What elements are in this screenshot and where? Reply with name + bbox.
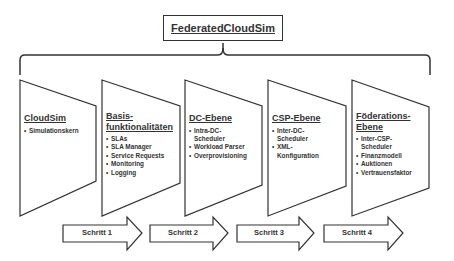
- title-box: FederatedCloudSim: [163, 15, 283, 41]
- list-item: XML-Konfiguration: [272, 143, 346, 160]
- list-item: Service Requests: [106, 152, 180, 160]
- list-item: SLA Manager: [106, 143, 180, 151]
- panel-heading: Föderations- Ebene: [356, 111, 430, 132]
- panel-cloudsim: CloudSim Simulationskern: [24, 113, 96, 135]
- panel-csp-ebene: CSP-Ebene Inter-DC-Scheduler XML-Konfigu…: [272, 113, 346, 160]
- panel-foederations-ebene: Föderations- Ebene Inter-CSP-Scheduler F…: [356, 111, 430, 177]
- list-item: Inter-CSP-Scheduler: [356, 135, 430, 152]
- panel-shape-cloudsim: [20, 80, 96, 216]
- step-label-2: Schritt 2: [153, 228, 213, 237]
- panel-heading: CloudSim: [24, 113, 96, 124]
- list-item: Overprovisioning: [189, 152, 263, 160]
- step-label-1: Schritt 1: [67, 228, 127, 237]
- grouping-brace: [20, 48, 430, 75]
- list-item: Finanzmodell: [356, 152, 430, 160]
- step-label-4: Schritt 4: [327, 228, 387, 237]
- list-item: Monitoring: [106, 160, 180, 168]
- step-label-3: Schritt 3: [239, 228, 299, 237]
- list-item: Intra-DC-Scheduler: [189, 127, 263, 144]
- list-item: SLAs: [106, 135, 180, 143]
- list-item: Auktionen: [356, 160, 430, 168]
- panel-heading: Basis- funktionalitäten: [106, 111, 180, 132]
- list-item: Workload Parser: [189, 143, 263, 151]
- list-item: Logging: [106, 169, 180, 177]
- list-item: Simulationskern: [24, 127, 96, 135]
- panel-heading: DC-Ebene: [189, 113, 263, 124]
- list-item: Inter-DC-Scheduler: [272, 127, 346, 144]
- diagram-title: FederatedCloudSim: [171, 22, 275, 34]
- list-item: Vertrauensfaktor: [356, 169, 430, 177]
- panel-dc-ebene: DC-Ebene Intra-DC-Scheduler Workload Par…: [189, 113, 263, 160]
- panel-heading: CSP-Ebene: [272, 113, 346, 124]
- panel-basisfunktionalitaeten: Basis- funktionalitäten SLAs SLA Manager…: [106, 111, 180, 177]
